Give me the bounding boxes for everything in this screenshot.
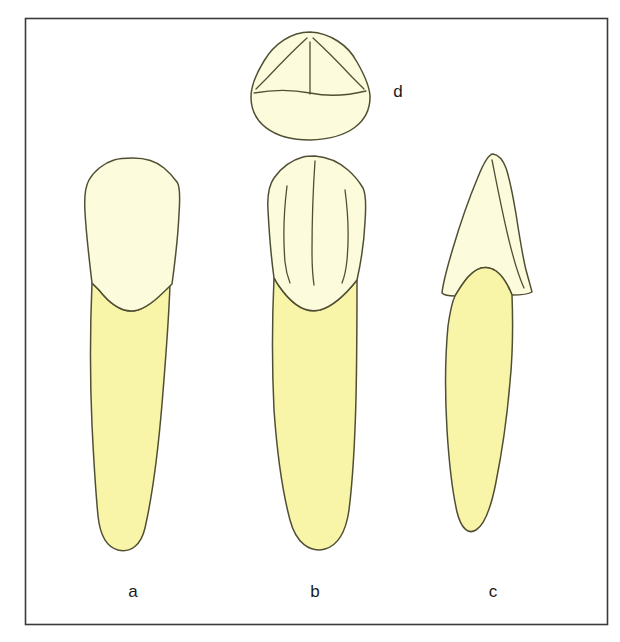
figure-label-b: b [310, 582, 319, 601]
figure-label-a: a [128, 582, 138, 601]
tooth-b-crown [268, 156, 366, 311]
tooth-anatomy-figure: a b c d [0, 0, 620, 642]
tooth-a-crown [85, 158, 180, 311]
figure-root: a b c d [0, 0, 620, 642]
figure-label-c: c [489, 582, 498, 601]
figure-label-d: d [393, 82, 402, 101]
